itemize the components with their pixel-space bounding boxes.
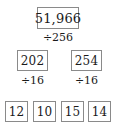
tree-node-leaf-4: 14 — [88, 101, 111, 122]
tree-node-level1-right: 254 — [71, 50, 102, 71]
tree-node-leaf-2: 10 — [33, 101, 56, 122]
operator-label-level1-right: ÷16 — [67, 74, 106, 87]
factor-tree-diagram: 51,966 ÷256 202 254 ÷16 ÷16 12 10 15 14 — [0, 0, 116, 126]
tree-node-root: 51,966 — [37, 7, 79, 29]
operator-label-level1-left: ÷16 — [13, 74, 52, 87]
tree-node-level1-left: 202 — [17, 50, 48, 71]
tree-node-leaf-3: 15 — [61, 101, 84, 122]
operator-label-root: ÷256 — [33, 31, 83, 44]
tree-node-leaf-1: 12 — [5, 101, 28, 122]
